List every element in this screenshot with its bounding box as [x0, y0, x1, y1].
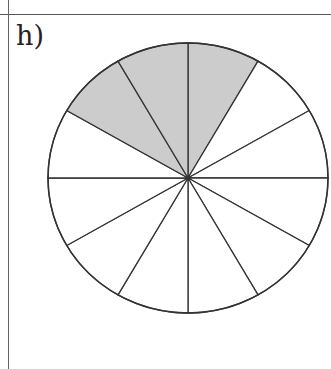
- circle-sectors: [48, 43, 328, 313]
- fraction-circle-diagram: [0, 0, 331, 369]
